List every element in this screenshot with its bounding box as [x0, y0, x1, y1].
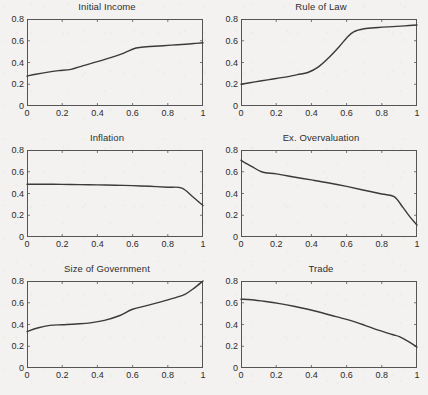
y-axis-tick-label: 0.6 — [11, 36, 24, 46]
x-axis-tick-label: 0.8 — [162, 108, 175, 118]
data-series-line — [27, 281, 203, 332]
plot-svg — [241, 281, 417, 368]
x-axis-tick-label: 0.4 — [91, 370, 104, 380]
axes-box — [242, 282, 417, 368]
axes-box — [242, 151, 417, 237]
data-series-line — [27, 43, 203, 76]
y-axis-tick-label: 0.4 — [11, 58, 24, 68]
tick-marks — [27, 150, 203, 237]
x-axis-tick-label: 1 — [414, 108, 419, 118]
y-axis-tick-label: 0.6 — [11, 298, 24, 308]
x-axis-tick-label: 0.4 — [305, 108, 318, 118]
tick-marks — [241, 281, 417, 368]
x-axis-tick-label: 0 — [24, 239, 29, 249]
tick-marks — [241, 150, 417, 237]
panel-title: Initial Income — [0, 1, 214, 12]
x-axis-tick-label: 0.2 — [270, 370, 283, 380]
plot-area: 00.20.40.60.800.20.40.60.81 — [27, 150, 203, 237]
subplot-grid: Initial Income 00.20.40.60.800.20.40.60.… — [0, 0, 428, 395]
axes-box — [242, 20, 417, 106]
y-axis-tick-label: 0.2 — [11, 79, 24, 89]
panel-ex-overvaluation: Ex. Overvaluation 00.20.40.60.800.20.40.… — [214, 131, 428, 262]
y-axis-tick-label: 0.4 — [225, 320, 238, 330]
plot-area: 00.20.40.60.800.20.40.60.81 — [27, 19, 203, 106]
x-axis-tick-label: 1 — [200, 239, 205, 249]
x-axis-tick-label: 0.2 — [270, 108, 283, 118]
plot-area: 00.20.40.60.800.20.40.60.81 — [27, 281, 203, 368]
y-axis-tick-label: 0 — [233, 363, 238, 373]
y-axis-tick-label: 0 — [19, 363, 24, 373]
x-axis-tick-label: 0.8 — [162, 239, 175, 249]
figure-canvas: Initial Income 00.20.40.60.800.20.40.60.… — [0, 0, 428, 395]
x-axis-tick-label: 0.2 — [56, 239, 69, 249]
y-axis-tick-label: 0.6 — [225, 298, 238, 308]
y-axis-tick-label: 0.8 — [11, 145, 24, 155]
x-axis-tick-label: 0.6 — [126, 370, 139, 380]
y-axis-tick-label: 0.2 — [225, 210, 238, 220]
x-axis-tick-label: 0.2 — [56, 370, 69, 380]
x-axis-tick-label: 0.2 — [270, 239, 283, 249]
plot-svg — [27, 281, 203, 368]
panel-trade: Trade 00.20.40.60.800.20.40.60.81 — [214, 262, 428, 395]
panel-title: Ex. Overvaluation — [214, 132, 428, 143]
x-axis-tick-label: 0 — [24, 370, 29, 380]
x-axis-tick-label: 0.2 — [56, 108, 69, 118]
tick-marks — [241, 19, 417, 106]
data-series-line — [241, 160, 417, 225]
y-axis-tick-label: 0.8 — [225, 276, 238, 286]
plot-area: 00.20.40.60.800.20.40.60.81 — [241, 281, 417, 368]
panel-title: Rule of Law — [214, 1, 428, 12]
x-axis-tick-label: 0 — [238, 239, 243, 249]
x-axis-tick-label: 0.8 — [376, 108, 389, 118]
y-axis-tick-label: 0.2 — [225, 341, 238, 351]
y-axis-tick-label: 0.4 — [11, 320, 24, 330]
panel-title: Inflation — [0, 132, 214, 143]
tick-marks — [27, 19, 203, 106]
plot-area: 00.20.40.60.800.20.40.60.81 — [241, 150, 417, 237]
plot-svg — [241, 150, 417, 237]
y-axis-tick-label: 0 — [233, 232, 238, 242]
y-axis-tick-label: 0.8 — [11, 14, 24, 24]
y-axis-tick-label: 0.4 — [225, 58, 238, 68]
x-axis-tick-label: 0.4 — [91, 239, 104, 249]
x-axis-tick-label: 0.6 — [126, 239, 139, 249]
y-axis-tick-label: 0.8 — [225, 145, 238, 155]
x-axis-tick-label: 1 — [414, 239, 419, 249]
y-axis-tick-label: 0.8 — [225, 14, 238, 24]
panel-rule-of-law: Rule of Law 00.20.40.60.800.20.40.60.81 — [214, 0, 428, 131]
x-axis-tick-label: 1 — [414, 370, 419, 380]
x-axis-tick-label: 0.4 — [305, 239, 318, 249]
plot-area: 00.20.40.60.800.20.40.60.81 — [241, 19, 417, 106]
panel-initial-income: Initial Income 00.20.40.60.800.20.40.60.… — [0, 0, 214, 131]
data-series-line — [27, 184, 203, 205]
y-axis-tick-label: 0 — [233, 101, 238, 111]
x-axis-tick-label: 0.4 — [305, 370, 318, 380]
y-axis-tick-label: 0.2 — [11, 341, 24, 351]
y-axis-tick-label: 0.6 — [225, 167, 238, 177]
x-axis-tick-label: 1 — [200, 108, 205, 118]
y-axis-tick-label: 0.4 — [11, 189, 24, 199]
axes-box — [28, 20, 203, 106]
x-axis-tick-label: 0.8 — [376, 370, 389, 380]
x-axis-tick-label: 0.6 — [340, 239, 353, 249]
panel-inflation: Inflation 00.20.40.60.800.20.40.60.81 — [0, 131, 214, 262]
panel-title: Size of Government — [0, 263, 214, 274]
data-series-line — [241, 25, 417, 84]
x-axis-tick-label: 0.6 — [340, 370, 353, 380]
y-axis-tick-label: 0.8 — [11, 276, 24, 286]
x-axis-tick-label: 0 — [24, 108, 29, 118]
x-axis-tick-label: 0.8 — [162, 370, 175, 380]
y-axis-tick-label: 0.6 — [225, 36, 238, 46]
x-axis-tick-label: 0.6 — [126, 108, 139, 118]
x-axis-tick-label: 0.6 — [340, 108, 353, 118]
panel-size-of-government: Size of Government 00.20.40.60.800.20.40… — [0, 262, 214, 395]
x-axis-tick-label: 1 — [200, 370, 205, 380]
plot-svg — [241, 19, 417, 106]
x-axis-tick-label: 0 — [238, 370, 243, 380]
y-axis-tick-label: 0.6 — [11, 167, 24, 177]
y-axis-tick-label: 0.4 — [225, 189, 238, 199]
data-series-line — [241, 299, 417, 347]
panel-title: Trade — [214, 263, 428, 274]
y-axis-tick-label: 0 — [19, 101, 24, 111]
x-axis-tick-label: 0.8 — [376, 239, 389, 249]
